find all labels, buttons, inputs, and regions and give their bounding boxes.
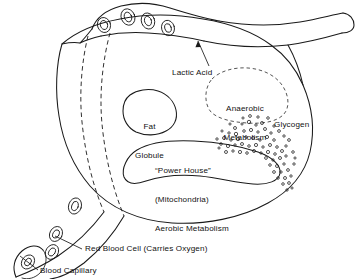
capillary-left-tip	[80, 29, 101, 43]
capillary-hidden-edge-right	[101, 33, 124, 216]
red-blood-cell-inner	[99, 20, 109, 31]
red-blood-cell-leader-line	[55, 236, 82, 249]
red-blood-cell-inner	[143, 15, 153, 26]
capillary-top-lower-wall	[101, 33, 204, 41]
label-power-house-line1: “Power House”	[155, 166, 229, 176]
label-anaerobic-line1: Anaerobic	[212, 104, 278, 114]
capillary-right-lower-wall	[204, 33, 342, 47]
label-power-house-line2: (Mitochondria)	[155, 195, 229, 205]
capillary-right-upper-wall	[219, 13, 343, 25]
cell-vessel-junction-left	[62, 43, 80, 44]
label-glycogen: Glycogen	[274, 120, 309, 130]
label-anaerobic-line2: Metabolism	[212, 133, 278, 143]
red-blood-cell	[66, 196, 83, 216]
capillary-hidden-edge-left	[81, 36, 104, 212]
lactic-acid-arrow	[195, 41, 209, 66]
label-fat-globule-line1: Fat	[122, 122, 177, 132]
capillary-open-end-ellipse	[342, 13, 354, 33]
red-blood-cell	[139, 11, 157, 31]
red-blood-cell	[119, 7, 138, 28]
red-blood-cell-inner	[47, 247, 57, 258]
label-blood-capillary: Blood Capillary	[40, 266, 97, 276]
muscle-cell-diagram: Lactic Acid Anaerobic Metabolism Glycoge…	[0, 0, 355, 279]
red-blood-cell-inner	[123, 11, 133, 23]
label-lactic-acid: Lactic Acid	[172, 68, 212, 78]
red-blood-cell	[43, 242, 62, 262]
red-blood-cell-inner	[70, 200, 79, 211]
label-red-blood-cell: Red Blood Cell (Carries Oxygen)	[85, 244, 208, 254]
label-power-house-line3: Aerobic Metabolism	[155, 224, 229, 234]
red-blood-cell	[47, 224, 65, 244]
arrowhead	[195, 41, 200, 47]
capillary-top-upper-wall	[92, 4, 219, 29]
label-power-house: “Power House” (Mitochondria) Aerobic Met…	[155, 147, 229, 253]
red-blood-cell-inner	[164, 23, 173, 33]
cell-vessel-junction-right	[288, 45, 303, 85]
